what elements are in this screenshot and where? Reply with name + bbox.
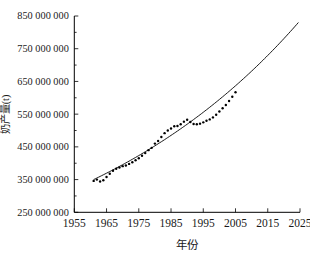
data-point bbox=[234, 91, 236, 93]
data-point bbox=[199, 122, 201, 124]
data-point bbox=[105, 176, 107, 178]
data-point bbox=[176, 125, 178, 127]
data-point bbox=[163, 132, 165, 134]
x-tick-label: 1995 bbox=[192, 217, 215, 229]
data-point bbox=[183, 120, 185, 122]
data-point bbox=[167, 129, 169, 131]
x-tick-label: 1965 bbox=[95, 217, 118, 229]
data-point bbox=[92, 180, 94, 182]
data-point bbox=[170, 127, 172, 129]
data-point bbox=[118, 166, 120, 168]
data-point bbox=[115, 168, 117, 170]
data-point bbox=[228, 100, 230, 102]
x-axis-label: 年份 bbox=[176, 238, 199, 251]
data-point bbox=[218, 110, 220, 112]
chart-canvas: 250 000 000350 000 000450 000 000550 000… bbox=[0, 0, 310, 262]
data-point bbox=[160, 136, 162, 138]
data-point bbox=[125, 164, 127, 166]
data-point bbox=[173, 125, 175, 127]
y-tick-label: 350 000 000 bbox=[17, 174, 68, 185]
data-point bbox=[192, 123, 194, 125]
data-point bbox=[150, 147, 152, 149]
milk-production-figure: 250 000 000350 000 000450 000 000550 000… bbox=[0, 0, 310, 262]
x-tick-label: 2015 bbox=[256, 217, 279, 229]
data-point bbox=[102, 179, 104, 181]
y-axis-label: 奶产量(t) bbox=[0, 95, 12, 135]
y-tick-label: 750 000 000 bbox=[17, 43, 68, 54]
y-tick-label: 550 000 000 bbox=[17, 109, 68, 120]
data-point bbox=[212, 116, 214, 118]
data-point bbox=[131, 161, 133, 163]
data-point bbox=[225, 104, 227, 106]
data-point bbox=[138, 157, 140, 159]
data-point bbox=[141, 155, 143, 157]
data-point bbox=[134, 159, 136, 161]
x-tick-label: 1975 bbox=[127, 217, 150, 229]
data-point bbox=[231, 96, 233, 98]
y-tick-label: 850 000 000 bbox=[17, 10, 68, 21]
data-point bbox=[189, 121, 191, 123]
data-point bbox=[121, 165, 123, 167]
x-tick-label: 2025 bbox=[289, 217, 311, 229]
data-point bbox=[196, 123, 198, 125]
y-tick-label: 650 000 000 bbox=[17, 76, 68, 87]
data-point bbox=[96, 178, 98, 180]
data-point bbox=[209, 118, 211, 120]
x-tick-label: 2005 bbox=[224, 217, 247, 229]
x-tick-label: 1955 bbox=[63, 217, 86, 229]
data-point bbox=[128, 163, 130, 165]
axes-lines bbox=[74, 16, 300, 212]
data-point bbox=[180, 123, 182, 125]
data-point bbox=[221, 107, 223, 109]
fit-curve bbox=[94, 23, 299, 180]
y-tick-label: 450 000 000 bbox=[17, 141, 68, 152]
data-point bbox=[186, 119, 188, 121]
data-point bbox=[154, 142, 156, 144]
data-point bbox=[112, 170, 114, 172]
data-point bbox=[215, 114, 217, 116]
y-tick-label: 250 000 000 bbox=[17, 207, 68, 218]
x-tick-label: 1985 bbox=[160, 217, 183, 229]
data-point bbox=[157, 140, 159, 142]
data-point bbox=[147, 149, 149, 151]
data-point bbox=[202, 121, 204, 123]
data-point bbox=[205, 119, 207, 121]
plot-layer: 250 000 000350 000 000450 000 000550 000… bbox=[17, 10, 310, 229]
data-point bbox=[109, 172, 111, 174]
data-point bbox=[99, 180, 101, 182]
data-point bbox=[144, 152, 146, 154]
